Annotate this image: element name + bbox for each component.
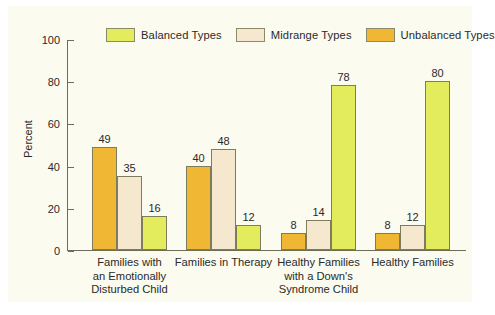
bar[interactable] (375, 233, 400, 250)
bar[interactable] (92, 147, 117, 250)
bar-value-label: 78 (337, 72, 349, 83)
bar[interactable] (117, 176, 142, 250)
bar-value-label: 40 (192, 153, 204, 164)
y-tick-label: 0 (54, 245, 60, 257)
y-tick-label: 80 (48, 76, 60, 88)
bar[interactable] (281, 233, 306, 250)
bar-slot: 78 (331, 85, 356, 250)
bar-slot: 40 (186, 166, 211, 250)
bar[interactable] (400, 225, 425, 250)
bar[interactable] (211, 149, 236, 250)
x-category-label: Healthy Families (348, 256, 478, 270)
y-tick: 40 (67, 167, 74, 168)
bar[interactable] (425, 81, 450, 250)
bar-slot: 49 (92, 147, 117, 250)
bar-value-label: 35 (123, 163, 135, 174)
x-category-label-line: with a Down's (254, 270, 384, 284)
plot-area: 020406080100 4935164048128147881280 (67, 40, 467, 251)
bar[interactable] (331, 85, 356, 250)
bar-slot: 48 (211, 149, 236, 250)
bar-group: 81478 (281, 85, 356, 250)
bar-slot: 8 (281, 233, 306, 250)
y-tick: 100 (67, 40, 74, 41)
bar-slot: 16 (142, 216, 167, 250)
y-tick: 0 (67, 251, 74, 252)
bar-group: 493516 (92, 147, 167, 250)
bar-slot: 8 (375, 233, 400, 250)
bar-slot: 35 (117, 176, 142, 250)
bar-value-label: 49 (98, 134, 110, 145)
bar-value-label: 80 (431, 68, 443, 79)
y-tick-label: 20 (48, 203, 60, 215)
y-tick-mark (68, 251, 74, 252)
bar-group: 81280 (375, 81, 450, 250)
y-tick-mark (68, 40, 74, 41)
bar[interactable] (236, 225, 261, 250)
y-tick-mark (68, 209, 74, 210)
y-tick-label: 100 (42, 34, 60, 46)
y-tick-label: 40 (48, 161, 60, 173)
y-tick-mark (68, 124, 74, 125)
bar-slot: 14 (306, 220, 331, 250)
y-axis-line (67, 40, 68, 251)
bar-slot: 12 (236, 225, 261, 250)
bar-value-label: 8 (384, 220, 390, 231)
bar-value-label: 16 (148, 203, 160, 214)
x-category-label-line: an Emotionally (65, 270, 195, 284)
bar-slot: 12 (400, 225, 425, 250)
chart-panel: Balanced Types Midrange Types Unbalanced… (8, 6, 472, 302)
bar-value-label: 8 (290, 220, 296, 231)
bar-value-label: 12 (242, 212, 254, 223)
y-tick-mark (68, 82, 74, 83)
y-tick: 60 (67, 124, 74, 125)
y-tick-mark (68, 167, 74, 168)
bar-group: 404812 (186, 149, 261, 250)
bar[interactable] (142, 216, 167, 250)
y-tick: 20 (67, 209, 74, 210)
bar[interactable] (306, 220, 331, 250)
y-tick: 80 (67, 82, 74, 83)
bar-value-label: 48 (217, 136, 229, 147)
y-tick-label: 60 (48, 118, 60, 130)
x-category-label-line: Disturbed Child (65, 283, 195, 297)
bar-value-label: 12 (406, 212, 418, 223)
bar-slot: 80 (425, 81, 450, 250)
x-category-label-line: Syndrome Child (254, 283, 384, 297)
bar-value-label: 14 (312, 207, 324, 218)
y-axis-title: Percent (22, 120, 34, 158)
x-category-label-line: Healthy Families (348, 256, 478, 270)
x-axis-line (67, 250, 466, 251)
bar[interactable] (186, 166, 211, 250)
